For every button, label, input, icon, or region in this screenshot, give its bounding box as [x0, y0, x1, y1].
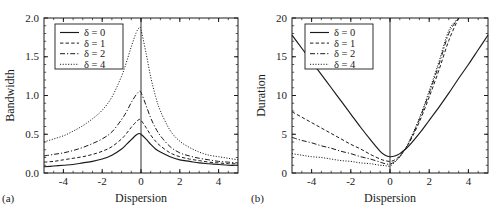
figure-container: -4-20240.00.51.01.52.0DispersionBandwidt… [0, 0, 498, 221]
legend-label-2: δ = 2 [84, 48, 105, 59]
y-tick-label: 0.0 [25, 167, 39, 179]
y-axis-label: Bandwidth [3, 69, 17, 122]
x-tick-label: 2 [177, 175, 183, 187]
x-tick-label: 2 [426, 175, 432, 187]
panel-a-plot: -4-20240.00.51.01.52.0DispersionBandwidt… [0, 0, 249, 221]
y-tick-label: 0.5 [25, 128, 39, 140]
x-tick-label: 0 [387, 175, 393, 187]
y-axis-label: Duration [254, 74, 268, 117]
y-tick-label: 15 [276, 50, 288, 62]
legend-label-2: δ = 2 [334, 48, 355, 59]
panel-tag: (b) [251, 192, 264, 205]
x-tick-label: 0 [138, 175, 144, 187]
panel-a: -4-20240.00.51.01.52.0DispersionBandwidt… [0, 0, 249, 221]
y-tick-label: 5 [282, 128, 288, 140]
legend-label-0: δ = 0 [84, 27, 105, 38]
y-tick-label: 0 [282, 167, 288, 179]
y-tick-label: 10 [276, 89, 288, 101]
legend-label-3: δ = 4 [334, 59, 356, 70]
legend-label-1: δ = 1 [84, 38, 105, 49]
y-tick-label: 20 [276, 12, 288, 24]
x-tick-label: -2 [98, 175, 107, 187]
y-tick-label: 2.0 [25, 12, 39, 24]
x-tick-label: 4 [466, 175, 472, 187]
x-axis-label: Dispersion [364, 191, 416, 205]
y-tick-label: 1.0 [25, 89, 39, 101]
x-axis-label: Dispersion [115, 191, 167, 205]
panel-b-plot: -4-202405101520DispersionDuration(b)δ = … [249, 0, 498, 221]
panel-tag: (a) [2, 192, 15, 205]
x-tick-label: -4 [307, 175, 317, 187]
legend-label-1: δ = 1 [334, 38, 355, 49]
x-tick-label: -2 [346, 175, 355, 187]
x-tick-label: -4 [59, 175, 69, 187]
legend-label-3: δ = 4 [84, 59, 106, 70]
y-tick-label: 1.5 [25, 50, 39, 62]
legend-label-0: δ = 0 [334, 27, 355, 38]
panel-b: -4-202405101520DispersionDuration(b)δ = … [249, 0, 498, 221]
x-tick-label: 4 [216, 175, 222, 187]
